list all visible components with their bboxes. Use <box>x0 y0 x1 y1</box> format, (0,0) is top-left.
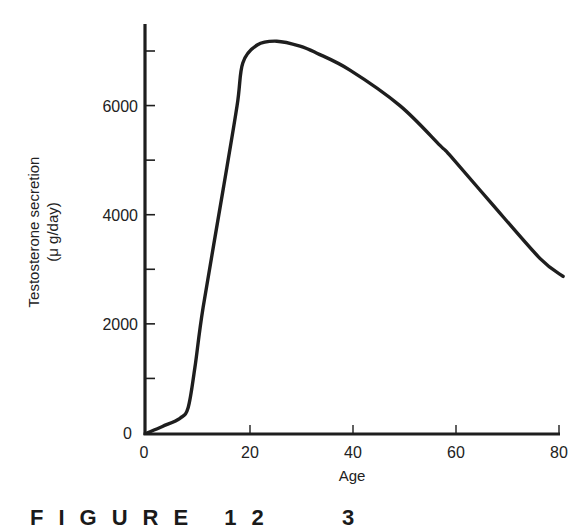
x-tick-label: 60 <box>447 444 465 461</box>
y-axis-units: (μ g/day) <box>44 202 61 262</box>
y-tick-label: 2000 <box>102 316 138 333</box>
x-axis-title: Age <box>339 467 366 484</box>
y-axis: 0200040006000 <box>102 24 155 442</box>
x-tick-label: 20 <box>241 444 259 461</box>
y-tick-label: 4000 <box>102 207 138 224</box>
x-axis: 020406080 <box>140 425 568 461</box>
x-tick-label: 40 <box>344 444 362 461</box>
plot-area <box>147 41 563 433</box>
series-line <box>147 41 563 433</box>
y-axis-title: Testosterone secretion <box>25 157 42 308</box>
x-tick-label: 0 <box>140 444 149 461</box>
y-tick-label: 6000 <box>102 98 138 115</box>
y-tick-label: 0 <box>123 425 132 442</box>
x-tick-label: 80 <box>550 444 568 461</box>
figure-caption: FIGURE 12 3 <box>30 507 369 529</box>
